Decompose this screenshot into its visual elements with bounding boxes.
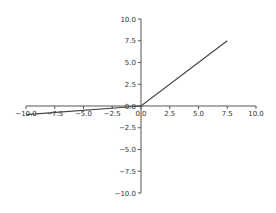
x-tick-label: 7.5 (222, 110, 233, 118)
x-tick-label: 2.5 (164, 110, 175, 118)
x-axis: −10.0−7.5−5.0−2.50.02.55.07.510.0 (15, 106, 264, 118)
y-tick-label: 10.0 (120, 16, 136, 24)
x-tick-label: 10.0 (248, 110, 264, 118)
y-tick-label: 2.5 (125, 81, 136, 89)
x-tick-label: −2.5 (104, 110, 121, 118)
y-tick-label: −10.0 (115, 190, 136, 198)
x-tick-label: −7.5 (46, 110, 63, 118)
chart: −10.0−7.5−5.0−2.50.02.55.07.510.0 10.07.… (0, 0, 276, 213)
y-tick-label: −2.5 (119, 124, 136, 132)
y-tick-label: −5.0 (119, 146, 136, 154)
y-tick-label: 7.5 (125, 37, 136, 45)
y-tick-label: 5.0 (125, 59, 136, 67)
y-tick-label: −7.5 (119, 168, 136, 176)
x-tick-label: 5.0 (193, 110, 204, 118)
